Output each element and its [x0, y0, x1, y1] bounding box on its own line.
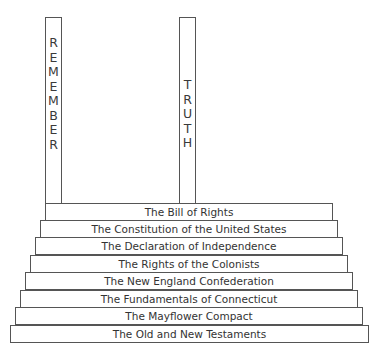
pillar-letter: M	[48, 65, 59, 80]
step-fundamentals-connecticut: The Fundamentals of Connecticut	[20, 290, 358, 308]
pillar-letter: E	[50, 51, 58, 66]
pillar-letter: H	[183, 136, 192, 151]
step-constitution: The Constitution of the United States	[40, 220, 338, 238]
pillar-letter: R	[183, 93, 192, 108]
pillar-letter: R	[49, 138, 58, 153]
pillar-letter: E	[50, 80, 58, 95]
step-old-new-testaments: The Old and New Testaments	[10, 325, 369, 343]
pillar-truth: T R U T H	[179, 17, 196, 204]
pillar-letter: R	[49, 36, 58, 51]
pillar-letter: T	[184, 122, 192, 137]
step-mayflower-compact: The Mayflower Compact	[15, 307, 363, 325]
step-declaration: The Declaration of Independence	[35, 237, 343, 255]
step-new-england-confederation: The New England Confederation	[25, 272, 353, 290]
pillar-letter: B	[49, 109, 58, 124]
step-bill-of-rights: The Bill of Rights	[45, 203, 333, 221]
pillar-letter: E	[50, 123, 58, 138]
pillar-remember: R E M E M B E R	[45, 17, 62, 204]
pillar-letter: T	[184, 78, 192, 93]
pillar-letter: U	[183, 107, 192, 122]
step-rights-of-colonists: The Rights of the Colonists	[30, 255, 348, 273]
pillar-letter: M	[48, 94, 59, 109]
